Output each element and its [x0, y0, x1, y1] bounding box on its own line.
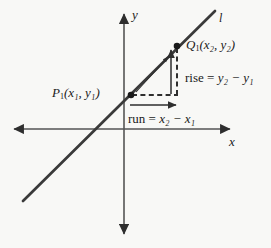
point-p1-label: P1(x₁, y₁) — [52, 86, 100, 101]
point-q1-label: Q1(x₂, y₂) — [186, 38, 235, 53]
run-expression: x₂ − x₁ — [159, 111, 195, 126]
run-word: run — [128, 111, 145, 126]
slope-diagram-figure: y x l P1(x₁, y₁) Q1(x₂, y₂) rise = y₂ − … — [0, 0, 271, 248]
y-axis-label: y — [132, 8, 138, 21]
line-l-label: l — [219, 12, 222, 24]
run-label: run = x₂ − x₁ — [128, 112, 195, 125]
point-p1-letter: P — [52, 85, 60, 100]
rise-word: rise — [185, 70, 204, 85]
x-axis-label: x — [229, 135, 235, 148]
point-q1-coords: (x₂, y₂) — [199, 37, 235, 52]
rise-label: rise = y₂ − y₁ — [185, 71, 253, 84]
run-equals: = — [149, 111, 156, 126]
point-p1-coords: (x₁, y₁) — [64, 85, 100, 100]
point-q1-marker — [174, 43, 181, 50]
point-p1-marker — [128, 92, 135, 99]
point-q1-letter: Q — [186, 37, 195, 52]
rise-expression: y₂ − y₁ — [218, 70, 254, 85]
